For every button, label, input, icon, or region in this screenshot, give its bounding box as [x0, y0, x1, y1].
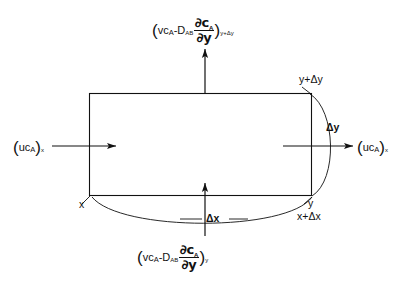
- bottom-flux-convective: vc: [143, 252, 154, 263]
- top-flux-num-partial: ∂c: [195, 15, 209, 30]
- right-flux-convective: uc: [363, 142, 375, 153]
- corner-label-top-right: y+Δy: [299, 74, 323, 85]
- bottom-flux-den-partial: ∂y: [181, 257, 196, 272]
- control-volume-rect: [90, 94, 312, 196]
- top-flux-derivative: ∂cA∂y: [194, 16, 214, 44]
- right-flux-evaluated-at: x: [385, 147, 388, 153]
- bottom-flux-derivative: ∂cA∂y: [179, 243, 199, 271]
- left-flux-evaluated-at: x: [41, 147, 44, 153]
- bottom-flux-label: (vcA-DAB∂cA∂y)y: [137, 243, 208, 271]
- top-flux-evaluated-at: y+Δy: [220, 30, 234, 36]
- top-flux-convective-sub: A: [169, 29, 174, 37]
- top-flux-diffusivity: D: [177, 25, 185, 36]
- left-flux-label: (ucA)x: [13, 139, 44, 156]
- corner-label-bottom-right-y: y: [308, 198, 313, 209]
- bottom-flux-evaluated-at: y: [205, 257, 208, 263]
- top-flux-label: (vcA-DAB∂cA∂y)y+Δy: [152, 16, 234, 44]
- bottom-flux-num-partial: ∂c: [180, 242, 194, 257]
- left-flux-convective: uc: [19, 142, 31, 153]
- delta-y-dimension-curve: [310, 94, 331, 196]
- bottom-flux-diffusivity-sub: AB: [170, 257, 178, 263]
- top-flux-diffusivity-sub: AB: [185, 30, 193, 36]
- corner-top-right-leader: [302, 87, 311, 94]
- dimension-label-delta-x: Δx: [206, 213, 219, 224]
- right-flux-label: (ucA)x: [357, 139, 388, 156]
- diagram-canvas: (vcA-DAB∂cA∂y)y+Δy (vcA-DAB∂cA∂y)y (ucA)…: [0, 0, 400, 287]
- left-flux-open-paren: (: [13, 139, 19, 156]
- top-flux-num-sub: A: [209, 25, 213, 31]
- bottom-flux-num-sub: A: [194, 252, 198, 258]
- top-flux-open-paren: (: [152, 22, 158, 39]
- dimension-label-delta-y: Δy: [326, 122, 339, 133]
- right-flux-open-paren: (: [357, 139, 363, 156]
- bottom-flux-diffusivity: D: [162, 252, 170, 263]
- top-flux-convective: vc: [158, 25, 169, 36]
- bottom-flux-convective-sub: A: [154, 256, 159, 264]
- corner-label-bottom-right-x: x+Δx: [297, 211, 321, 222]
- top-flux-den-partial: ∂y: [196, 30, 211, 45]
- corner-label-bottom-left: x: [79, 199, 84, 210]
- bottom-flux-open-paren: (: [137, 249, 143, 266]
